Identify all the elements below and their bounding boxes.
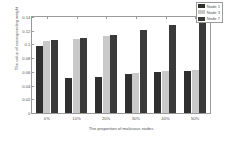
bar [140,30,147,113]
y-tick-label: 0.12 [22,28,30,33]
y-tick-label: 0.02 [22,97,30,102]
legend-item: Node 3 [198,10,220,15]
bar-group [184,17,206,113]
bar [51,40,58,113]
x-tick-label: 30% [132,116,140,121]
bar-group [65,17,87,113]
y-tick-label: 0.14 [22,15,30,20]
y-tick-label: 0.08 [22,56,30,61]
x-tick-label: 20% [102,116,110,121]
bar [184,71,191,114]
bar-group [154,17,176,113]
x-tick-label: 10% [72,116,80,121]
y-tick-mark [32,86,34,87]
bar [192,70,199,113]
y-tick-mark [32,58,34,59]
y-tick-label: 0.1 [25,42,31,47]
bar [132,73,139,113]
x-tick-mark [47,17,48,19]
x-tick-label: 0% [44,116,50,121]
x-tick-mark [166,17,167,19]
y-axis-label: The value of corresponding weight [14,0,19,91]
y-tick-label: 0.06 [22,69,30,74]
bar-groups [32,17,210,113]
y-tick-mark [32,113,34,114]
x-axis-label: The proportion of malicious nodes [31,126,211,131]
bar [95,77,102,113]
legend-label: Node 7 [207,16,220,21]
x-tick-label: 50% [191,116,199,121]
bar [154,72,161,113]
bar [65,78,72,113]
legend-swatch-icon [198,10,205,14]
x-tick-mark [136,17,137,19]
bar-group [125,17,147,113]
bar [80,38,87,113]
y-tick-label: 0.04 [22,83,30,88]
bar [110,35,117,113]
bar-group [95,17,117,113]
y-tick-mark [32,44,34,45]
bar [125,74,132,113]
x-tick-mark [77,17,78,19]
plot-area: 00.020.040.060.080.10.120.14 0%10%20%30%… [31,16,211,114]
legend-swatch-icon [198,17,205,21]
bar-chart-figure: The value of corresponding weight 00.020… [0,0,225,141]
y-tick-mark [32,72,34,73]
bar [199,22,206,113]
legend-swatch-icon [198,4,205,8]
y-tick-label: 0 [28,111,30,116]
bar [103,36,110,113]
bar [162,71,169,113]
y-tick-mark [32,99,34,100]
bar [43,41,50,113]
bar [73,39,80,113]
x-tick-label: 40% [161,116,169,121]
bar-group [36,17,58,113]
bar [36,46,43,113]
legend-label: Node 3 [207,10,220,15]
legend-item: Node 1 [198,4,220,9]
bar [169,25,176,113]
x-tick-mark [106,17,107,19]
chart-legend: Node 1Node 3Node 7 [196,2,223,24]
legend-label: Node 1 [207,4,220,9]
legend-item: Node 7 [198,16,220,21]
y-tick-mark [32,17,34,18]
y-tick-mark [32,31,34,32]
